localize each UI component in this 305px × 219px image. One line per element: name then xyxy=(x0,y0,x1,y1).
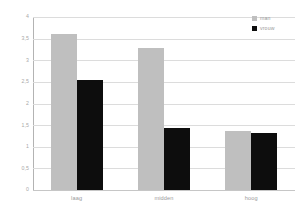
bar-group xyxy=(225,17,277,190)
chart-legend: manvrouw xyxy=(252,14,302,34)
bar-hoog-vrouw xyxy=(251,133,277,190)
y-axis-tick-label: 4 xyxy=(5,14,29,19)
x-axis-label-hoog: hoog xyxy=(216,196,286,202)
y-axis-tick-label: 3 xyxy=(5,58,29,63)
y-axis-tick-label: 2,5 xyxy=(5,79,29,84)
bar-laag-man xyxy=(51,34,77,190)
legend-swatch-icon-man xyxy=(252,16,257,21)
y-axis-tick-label: 1,5 xyxy=(5,123,29,128)
y-axis-tick-label: 1 xyxy=(5,144,29,149)
y-axis-tick-label: 0,5 xyxy=(5,166,29,171)
bar-group xyxy=(138,17,190,190)
x-axis-label-laag: laag xyxy=(42,196,112,202)
y-axis-tick-label: 0 xyxy=(5,187,29,192)
bar-midden-vrouw xyxy=(164,128,190,190)
y-axis-tick-label: 3,5 xyxy=(5,36,29,41)
gridline xyxy=(33,190,295,191)
bar-midden-man xyxy=(138,48,164,190)
legend-label-man: man xyxy=(260,16,271,21)
bar-laag-vrouw xyxy=(77,80,103,190)
legend-item-vrouw[interactable]: vrouw xyxy=(252,24,302,33)
legend-item-man[interactable]: man xyxy=(252,14,302,23)
y-axis-tick-label: 2 xyxy=(5,101,29,106)
bar-hoog-man xyxy=(225,131,251,190)
bar-chart: 00,511,522,533,54 laagmiddenhoog manvrou… xyxy=(0,0,305,219)
bar-group xyxy=(51,17,103,190)
x-axis-label-midden: midden xyxy=(129,196,199,202)
legend-label-vrouw: vrouw xyxy=(260,26,275,31)
legend-swatch-icon-vrouw xyxy=(252,26,257,31)
plot-area xyxy=(33,17,295,190)
